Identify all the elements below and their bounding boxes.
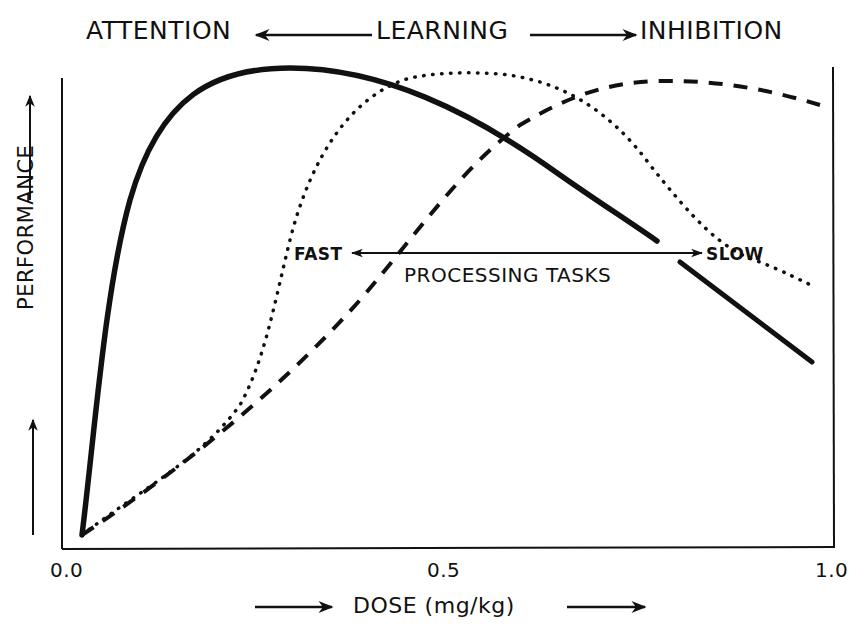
series-inhibition-dashed <box>82 81 820 535</box>
series-learning-dotted <box>82 73 815 535</box>
series-attention-solid <box>82 68 812 535</box>
chart-canvas <box>0 0 868 636</box>
plot-frame <box>62 67 834 549</box>
